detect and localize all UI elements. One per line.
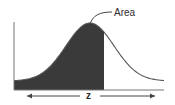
area-leader-line [90,12,112,24]
area-label: Area [114,7,136,18]
z-label: z [86,90,91,101]
normal-curve-diagram: Area z [0,0,175,105]
